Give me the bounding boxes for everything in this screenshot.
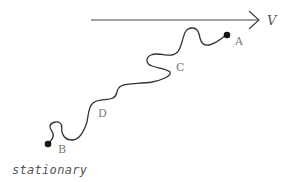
point-a-label: A	[234, 35, 244, 48]
point-b-dot	[45, 141, 52, 148]
stationary-caption: stationary	[12, 163, 88, 177]
point-b-label: B	[58, 143, 66, 156]
point-a-dot	[224, 32, 231, 39]
wavy-trajectory-path	[48, 28, 226, 143]
wavy-path-diagram: V A C D B stationary	[0, 0, 292, 182]
point-c-label: C	[176, 61, 184, 74]
point-d-label: D	[98, 107, 107, 120]
velocity-label: V	[267, 13, 278, 28]
velocity-arrow	[91, 11, 259, 29]
